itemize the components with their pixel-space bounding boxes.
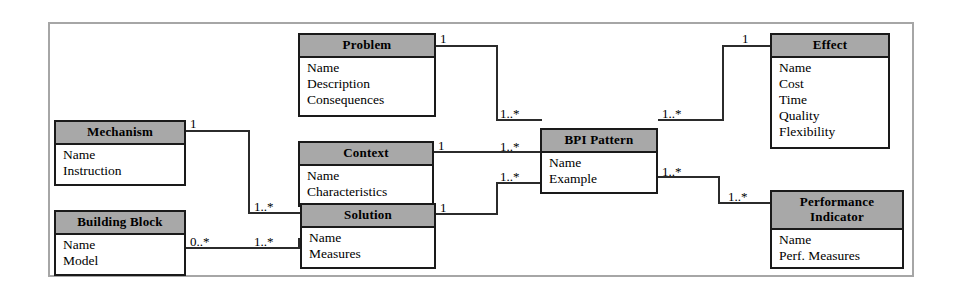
- class-context[interactable]: Context Name Characteristics: [298, 141, 434, 207]
- multiplicity-pattern-to-indicator: 1..*: [662, 165, 682, 178]
- multiplicity-indicator-end: 1..*: [728, 190, 748, 203]
- class-building-block-title: Building Block: [56, 212, 184, 235]
- attribute: Flexibility: [779, 124, 888, 140]
- attribute: Characteristics: [307, 184, 432, 200]
- attribute: Quality: [779, 108, 888, 124]
- class-solution-attributes: Name Measures: [302, 228, 434, 265]
- attribute: Name: [307, 60, 434, 76]
- connector-context-pattern: [434, 151, 542, 153]
- attribute: Model: [63, 253, 184, 269]
- class-effect-title: Effect: [772, 35, 888, 58]
- attribute: Consequences: [307, 92, 434, 108]
- class-building-block-attributes: Name Model: [56, 235, 184, 272]
- attribute: Name: [779, 232, 902, 248]
- class-performance-indicator-title-line2: Indicator: [774, 210, 900, 225]
- class-problem-attributes: Name Description Consequences: [300, 58, 434, 111]
- attribute: Cost: [779, 76, 888, 92]
- multiplicity-problem-end: 1: [440, 32, 447, 45]
- class-problem-title: Problem: [300, 35, 434, 58]
- class-performance-indicator-title: Performance Indicator: [772, 192, 902, 230]
- attribute: Name: [63, 147, 184, 163]
- attribute: Name: [63, 237, 184, 253]
- attribute: Description: [307, 76, 434, 92]
- multiplicity-context-to-pattern: 1..*: [500, 140, 520, 153]
- class-performance-indicator-attributes: Name Perf. Measures: [772, 230, 902, 267]
- connector-problem-pattern-seg2: [496, 45, 498, 121]
- attribute: Example: [549, 171, 656, 187]
- attribute: Name: [549, 155, 656, 171]
- multiplicity-mechanism-to-solution: 1..*: [254, 200, 274, 213]
- connector-pattern-effect-seg2: [722, 45, 724, 121]
- multiplicity-solution-to-pattern: 1..*: [500, 170, 520, 183]
- connector-solution-pattern-seg2: [496, 182, 498, 215]
- class-context-title: Context: [300, 143, 432, 166]
- class-building-block[interactable]: Building Block Name Model: [54, 210, 186, 276]
- class-bpi-pattern-title: BPI Pattern: [542, 130, 656, 153]
- attribute: Name: [307, 168, 432, 184]
- class-mechanism-attributes: Name Instruction: [56, 145, 184, 182]
- class-mechanism-title: Mechanism: [56, 122, 184, 145]
- attribute: Time: [779, 92, 888, 108]
- class-performance-indicator[interactable]: Performance Indicator Name Perf. Measure…: [770, 190, 904, 269]
- multiplicity-context-end: 1: [438, 139, 445, 152]
- multiplicity-building-block-end: 0..*: [190, 235, 210, 248]
- connector-pattern-indicator-seg2: [718, 176, 720, 204]
- multiplicity-pattern-to-effect: 1..*: [662, 107, 682, 120]
- class-solution[interactable]: Solution Name Measures: [300, 203, 436, 269]
- multiplicity-mechanism-end: 1: [190, 117, 197, 130]
- uml-class-diagram: Problem Name Description Consequences Me…: [0, 0, 953, 295]
- class-solution-title: Solution: [302, 205, 434, 228]
- multiplicity-solution-end: 1: [440, 201, 447, 214]
- attribute: Instruction: [63, 163, 184, 179]
- attribute: Perf. Measures: [779, 248, 902, 264]
- attribute: Name: [779, 60, 888, 76]
- multiplicity-problem-to-pattern: 1..*: [500, 107, 520, 120]
- class-effect[interactable]: Effect Name Cost Time Quality Flexibilit…: [770, 33, 890, 149]
- class-effect-attributes: Name Cost Time Quality Flexibility: [772, 58, 888, 143]
- class-problem[interactable]: Problem Name Description Consequences: [298, 33, 436, 117]
- multiplicity-effect-end: 1: [742, 32, 749, 45]
- class-performance-indicator-title-line1: Performance: [774, 195, 900, 210]
- attribute: Measures: [309, 246, 434, 262]
- class-mechanism[interactable]: Mechanism Name Instruction: [54, 120, 186, 186]
- connector-mechanism-solution-seg2: [248, 130, 250, 214]
- attribute: Name: [309, 230, 434, 246]
- multiplicity-building-block-to-solution: 1..*: [254, 235, 274, 248]
- class-bpi-pattern-attributes: Name Example: [542, 153, 656, 190]
- class-context-attributes: Name Characteristics: [300, 166, 432, 203]
- class-bpi-pattern[interactable]: BPI Pattern Name Example: [540, 128, 658, 194]
